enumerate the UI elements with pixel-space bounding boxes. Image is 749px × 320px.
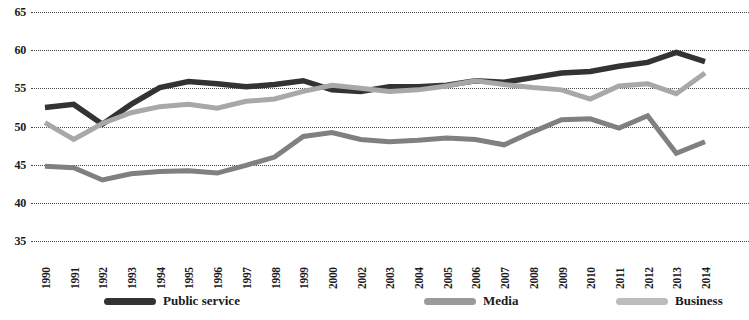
legend-item[interactable]: Public service bbox=[104, 293, 240, 309]
x-tick-label: 2010 bbox=[585, 243, 597, 289]
x-tick-label: 2003 bbox=[384, 243, 396, 289]
x-tick-label: 1999 bbox=[298, 243, 310, 289]
legend-swatch-icon bbox=[616, 298, 668, 305]
x-tick-label: 2009 bbox=[557, 243, 569, 289]
x-tick-label: 2012 bbox=[643, 243, 655, 289]
series-line bbox=[45, 116, 705, 180]
series-layer bbox=[31, 12, 749, 241]
x-tick-label: 1995 bbox=[183, 243, 195, 289]
legend-item[interactable]: Media bbox=[424, 293, 518, 309]
x-tick-label: 1994 bbox=[155, 243, 167, 289]
x-tick-label: 2004 bbox=[413, 243, 425, 289]
legend-item[interactable]: Business bbox=[616, 293, 723, 309]
gridline bbox=[31, 241, 749, 242]
plot-area bbox=[31, 12, 749, 241]
x-tick-label: 1991 bbox=[69, 243, 81, 289]
x-tick-label: 2013 bbox=[671, 243, 683, 289]
x-tick-label: 2006 bbox=[470, 243, 482, 289]
x-tick-label: 2014 bbox=[700, 243, 712, 289]
series-line bbox=[45, 73, 705, 139]
y-tick-label: 40 bbox=[14, 195, 26, 210]
x-tick-label: 1996 bbox=[212, 243, 224, 289]
x-tick-label: 1998 bbox=[270, 243, 282, 289]
chart-legend: Public serviceMediaBusiness bbox=[0, 293, 749, 315]
y-tick-label: 65 bbox=[14, 5, 26, 20]
legend-label: Public service bbox=[163, 293, 240, 309]
x-tick-label: 2007 bbox=[499, 243, 511, 289]
x-tick-label: 1997 bbox=[241, 243, 253, 289]
legend-swatch-icon bbox=[424, 298, 476, 305]
legend-label: Media bbox=[483, 293, 518, 309]
x-tick-label: 2002 bbox=[356, 243, 368, 289]
x-tick-label: 1992 bbox=[97, 243, 109, 289]
y-tick-label: 55 bbox=[14, 81, 26, 96]
x-tick-label: 2011 bbox=[614, 243, 626, 289]
x-axis: 1990199119921993199419951996199719981999… bbox=[31, 243, 749, 291]
x-tick-label: 2008 bbox=[528, 243, 540, 289]
y-tick-label: 50 bbox=[14, 119, 26, 134]
y-axis: 35404550556065 bbox=[0, 0, 31, 253]
x-tick-label: 1993 bbox=[126, 243, 138, 289]
x-tick-label: 1990 bbox=[40, 243, 52, 289]
x-tick-label: 2000 bbox=[327, 243, 339, 289]
x-tick-label: 2005 bbox=[442, 243, 454, 289]
y-tick-label: 45 bbox=[14, 157, 26, 172]
y-tick-label: 60 bbox=[14, 43, 26, 58]
legend-swatch-icon bbox=[104, 298, 156, 305]
legend-label: Business bbox=[675, 293, 723, 309]
line-chart: 35404550556065 1990199119921993199419951… bbox=[0, 0, 749, 320]
y-tick-label: 35 bbox=[14, 234, 26, 249]
